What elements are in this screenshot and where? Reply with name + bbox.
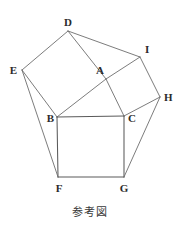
geometry-diagram: A B C D E F G H I	[0, 0, 180, 231]
vertex-label-E: E	[10, 64, 17, 76]
segment-AI	[106, 57, 140, 79]
figure-container: A B C D E F G H I 参考図	[0, 0, 180, 231]
segment-AB	[57, 79, 106, 117]
segment-HG	[124, 97, 160, 177]
vertex-label-B: B	[47, 112, 55, 124]
segment-CA	[106, 79, 124, 116]
segment-DE	[22, 31, 68, 70]
square-on-AB	[22, 31, 106, 117]
vertex-label-A: A	[96, 64, 104, 76]
vertex-label-D: D	[64, 16, 72, 28]
vertex-label-I: I	[145, 43, 149, 55]
vertex-label-C: C	[128, 112, 136, 124]
segment-BF	[57, 117, 58, 177]
segment-IH	[140, 57, 160, 97]
square-on-BC	[57, 116, 124, 177]
segment-BC	[57, 116, 124, 117]
vertex-label-F: F	[56, 182, 63, 194]
segment-EB	[22, 70, 57, 117]
figure-caption: 参考図	[0, 206, 180, 220]
triangle-ABC	[57, 79, 124, 117]
vertex-label-G: G	[120, 182, 129, 194]
vertex-label-H: H	[164, 91, 173, 103]
square-on-AC	[106, 57, 160, 116]
